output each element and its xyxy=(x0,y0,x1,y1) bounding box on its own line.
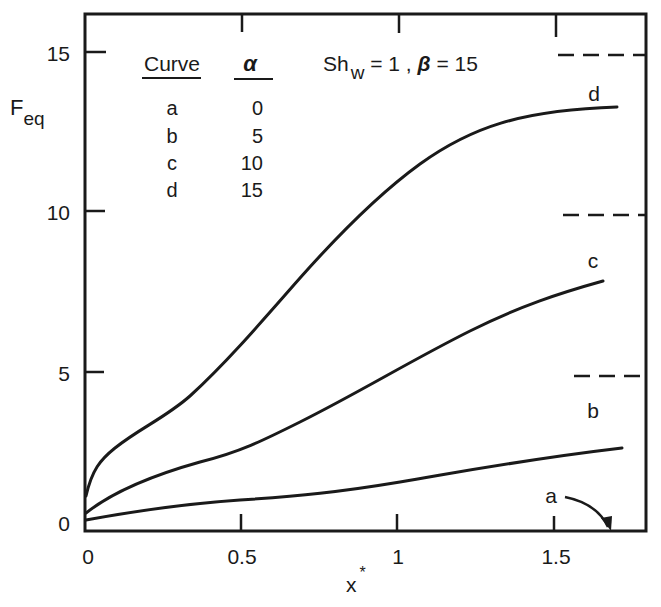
plot-frame xyxy=(85,14,646,531)
svg-text:15: 15 xyxy=(241,179,263,201)
x-tick-label: 1.5 xyxy=(541,545,570,568)
svg-text:5: 5 xyxy=(252,125,263,147)
asymptote-lines xyxy=(558,55,646,376)
x-tick-label: 0.5 xyxy=(227,545,256,568)
svg-text:0: 0 xyxy=(252,97,263,119)
curve-label-b: b xyxy=(587,399,599,422)
legend-header-alpha: α xyxy=(243,51,258,76)
legend: Curve α a 0 b 5 c 10 d 15 xyxy=(142,51,273,201)
x-tick-label: 0 xyxy=(82,545,94,568)
curve-a-arrow xyxy=(565,497,612,531)
y-tick-label: 0 xyxy=(58,512,70,535)
x-ticks xyxy=(241,514,554,531)
y-axis-label: Feq xyxy=(10,95,45,129)
legend-header-curve: Curve xyxy=(144,52,200,75)
svg-text:c: c xyxy=(167,152,177,174)
svg-text:a: a xyxy=(166,97,178,119)
curve-label-c: c xyxy=(588,249,599,272)
svg-text:b: b xyxy=(166,125,177,147)
x-tick-label: 1 xyxy=(392,545,404,568)
y-ticks xyxy=(85,52,106,372)
y-tick-label: 15 xyxy=(47,42,70,65)
x-ticks-top xyxy=(242,14,556,37)
x-axis-label: x* xyxy=(346,564,366,596)
curve-label-a: a xyxy=(545,484,557,507)
curve-label-d: d xyxy=(588,82,600,105)
curve-c xyxy=(86,281,603,513)
parameter-annotation: Shw = 1 , β = 15 xyxy=(323,52,478,83)
y-tick-label: 5 xyxy=(58,362,70,385)
svg-text:10: 10 xyxy=(241,152,263,174)
y-tick-label: 10 xyxy=(47,201,70,224)
chart: 15 10 5 0 0 0.5 1 1.5 Feq x* Curve α a 0… xyxy=(0,0,661,607)
svg-text:d: d xyxy=(166,179,177,201)
curve-b xyxy=(86,448,622,520)
